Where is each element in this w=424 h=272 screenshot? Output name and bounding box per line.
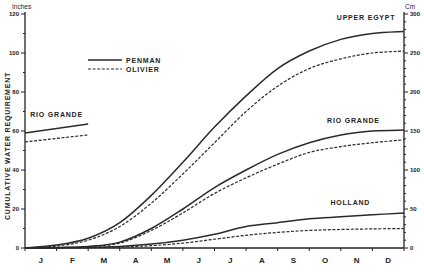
series-line-upper-egypt-olivier: [25, 51, 404, 248]
y-right-tick-label: 300: [410, 11, 421, 17]
y-left-tick-label: 120: [9, 11, 20, 17]
x-month-label: S: [291, 256, 297, 265]
x-month-label: M: [164, 256, 171, 265]
y-right-tick-label: 150: [410, 128, 421, 134]
x-month-label: J: [228, 256, 232, 265]
x-month-label: J: [39, 256, 43, 265]
y-right-tick-label: 50: [410, 206, 417, 212]
y-left-tick-label: 0: [16, 245, 20, 251]
series-annotation-label: UPPER EGYPT: [337, 14, 396, 21]
series-line-rio-grande-olivier: [25, 140, 404, 248]
series-line-rio-grande-penman: [25, 130, 404, 248]
legend-label-penman: PENMAN: [126, 57, 161, 64]
x-month-label: F: [70, 256, 75, 265]
series-line-upper-egypt-penman: [25, 32, 404, 248]
series-annotation-label: RIO GRANDE: [30, 111, 83, 118]
legend: PENMAN OLIVIER: [88, 57, 161, 73]
x-month-label: N: [354, 256, 360, 265]
y-right-tick-label: 0: [410, 245, 414, 251]
series-line-holland-olivier: [25, 229, 404, 249]
series-annotation-label: RIO GRANDE: [327, 117, 380, 124]
series-line-holland-penman: [25, 213, 404, 248]
y-left-tick-label: 40: [12, 167, 19, 173]
legend-label-olivier: OLIVIER: [126, 66, 160, 73]
series-annotation-label: HOLLAND: [330, 199, 370, 206]
x-month-label: A: [259, 256, 265, 265]
x-month-label: O: [322, 256, 328, 265]
series-layer: [25, 32, 404, 248]
y-left-tick-label: 20: [12, 206, 19, 212]
month-labels: JFMAMJJASOND: [39, 256, 392, 265]
y-left-tick-label: 100: [9, 50, 20, 56]
x-month-label: D: [385, 256, 391, 265]
annotations: UPPER EGYPTRIO GRANDEHOLLANDRIO GRANDE: [30, 14, 395, 206]
x-month-label: J: [196, 256, 200, 265]
series-line-rio-grande-continued-jan-feb-olivier: [25, 135, 88, 142]
axes: [25, 12, 404, 248]
y-right-unit-label: Cm: [405, 3, 415, 10]
y-left-tick-label: 80: [12, 89, 19, 95]
series-line-rio-grande-continued-jan-feb-penman: [25, 124, 88, 133]
y-right-tick-label: 200: [410, 89, 421, 95]
water-requirement-chart: 020406080100120050100150200250300 Inches…: [0, 0, 424, 272]
x-month-label: A: [133, 256, 139, 265]
y-left-unit-label: Inches: [12, 3, 32, 10]
y-left-tick-label: 60: [12, 128, 19, 134]
y-right-tick-label: 250: [410, 50, 421, 56]
y-axis-title: CUMULATIVE WATER REQUIREMENT: [4, 72, 12, 220]
y-right-tick-label: 100: [410, 167, 421, 173]
x-month-label: M: [101, 256, 108, 265]
